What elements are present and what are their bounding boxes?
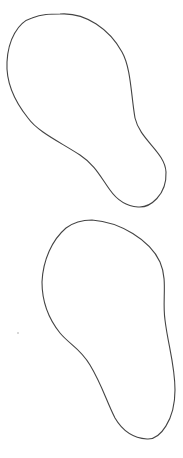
lower-outline-shape [42,220,175,439]
upper-outline-shape [7,14,166,207]
outline-drawing [0,0,183,458]
faint-caption [60,446,150,454]
stray-mark [17,332,19,334]
